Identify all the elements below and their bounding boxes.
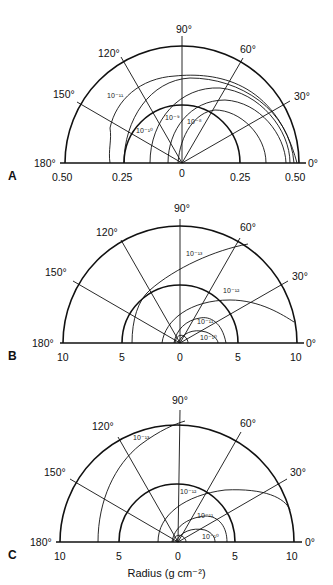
- panel-a-tick: 0: [179, 167, 185, 179]
- panel-b-angle-0: 0°: [306, 337, 316, 349]
- x-axis-label: Radius (g cm⁻²): [0, 567, 333, 580]
- panel-c-angle-150: 150°: [44, 466, 66, 478]
- panel-a-angle-150: 150°: [53, 88, 75, 100]
- panel-b-angle-120: 120°: [96, 226, 118, 238]
- panel-a-angle-60: 60°: [240, 43, 256, 55]
- panel-c-label: C: [8, 548, 17, 562]
- panel-c-angle-60: 60°: [240, 417, 256, 429]
- panel-b-isoline-label: 10⁻¹¹: [197, 318, 214, 325]
- panel-a-spoke-30: [182, 101, 290, 163]
- panel-c-isoline-label: 10⁻¹⁰: [202, 533, 219, 540]
- panel-c-spoke-90: [178, 410, 180, 542]
- panel-c-spoke-120: [118, 437, 178, 542]
- panel-b-tick: 10: [290, 351, 302, 363]
- panel-c-angle-120: 120°: [92, 420, 114, 432]
- panel-a-spoke-150: [77, 102, 182, 163]
- panel-c-angle-180: 180°: [30, 536, 52, 548]
- panel-a: 90° 60° 30° 0° 120° 150° 180° 10⁻¹¹ 10⁻¹…: [8, 23, 318, 183]
- panel-c-tick: 0: [175, 550, 181, 562]
- panel-a-angle-180: 180°: [34, 157, 56, 169]
- panel-c-tick: 10: [54, 550, 66, 562]
- panel-a-angle-90: 90°: [176, 23, 192, 35]
- panel-a-isoline-label: 10⁻¹⁰: [136, 127, 153, 134]
- panel-a-tick: 0.25: [112, 171, 133, 183]
- panel-a-isoline-label: 10⁻¹¹: [107, 92, 124, 99]
- panel-b-angle-90: 90°: [174, 202, 190, 214]
- panel-a-label: A: [8, 169, 17, 183]
- panel-c-spoke-60: [178, 432, 241, 542]
- panel-c-tick: 5: [116, 550, 122, 562]
- panel-b-angle-60: 60°: [240, 221, 256, 233]
- panel-b-angle-180: 180°: [32, 337, 54, 349]
- panel-a-contour-1e-10: [150, 88, 290, 163]
- panel-c-angle-90: 90°: [172, 394, 188, 406]
- panel-b-isoline-label: 10⁻¹⁰: [200, 334, 217, 341]
- panel-a-angle-120: 120°: [98, 47, 120, 59]
- panel-c-isoline-label: 10⁻¹³: [133, 434, 150, 441]
- panel-b: 90° 60° 30° 0° 120° 150° 180° 10⁻¹³ 10⁻¹…: [8, 202, 316, 363]
- panel-c-isoline-label: 10⁻¹²: [180, 488, 197, 495]
- panel-a-angle-30: 30°: [294, 90, 310, 102]
- panel-b-angle-150: 150°: [45, 266, 67, 278]
- panel-c-tick: 5: [232, 550, 238, 562]
- panel-b-spoke-120: [121, 240, 180, 343]
- panel-b-label: B: [8, 349, 17, 363]
- panel-c-tick: 10: [286, 550, 298, 562]
- panel-a-contour-1e-10-outer: [124, 78, 294, 163]
- panel-a-tick: 0.50: [285, 171, 306, 183]
- polar-diagram-figure: 90° 60° 30° 0° 120° 150° 180° 10⁻¹¹ 10⁻¹…: [0, 0, 333, 585]
- panel-c: 90° 60° 30° 0° 120° 150° 180° 10⁻¹³ 10⁻¹…: [8, 394, 315, 562]
- panel-a-contour-1e-11: [109, 75, 297, 163]
- panel-a-tick: 0.25: [230, 171, 251, 183]
- panel-b-tick: 0: [177, 351, 183, 363]
- panel-a-angle-0: 0°: [308, 157, 318, 169]
- panel-a-tick: 0.50: [52, 171, 73, 183]
- panel-c-angle-0: 0°: [305, 536, 315, 548]
- panel-c-spoke-150: [70, 479, 178, 542]
- panel-b-angle-30: 30°: [292, 270, 308, 282]
- panel-c-isoline-label: 10⁻¹¹: [197, 512, 214, 519]
- panel-b-tick: 5: [235, 351, 241, 363]
- panel-c-angle-30: 30°: [290, 466, 306, 478]
- panel-b-isoline-label: 10⁻¹²: [223, 287, 240, 294]
- panel-a-isoline-label: 10⁻⁸: [187, 118, 202, 125]
- panel-b-tick: 5: [119, 351, 125, 363]
- panel-a-contour-1e-9: [168, 100, 286, 163]
- panel-b-isoline-label: 10⁻¹³: [186, 250, 203, 257]
- panel-b-tick: 10: [57, 351, 69, 363]
- panel-a-isoline-label: 10⁻⁹: [165, 114, 180, 121]
